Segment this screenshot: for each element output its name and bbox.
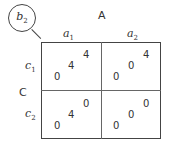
cell-c1-a1-mid: 4 [68,60,74,71]
column-level-a1: a1 [63,27,74,42]
grid-horizontal-divider [41,90,161,91]
row-level-c2: c2 [25,107,36,122]
column-level-a2: a2 [127,27,138,42]
row-factor-label: C [19,86,27,99]
cell-c2-a1-mid: 4 [68,109,74,120]
cell-c1-a2-bottom: 0 [113,71,119,82]
cell-c1-a2-mid: 0 [128,60,134,71]
cell-c1-a2-top: 4 [143,49,149,60]
cell-c2-a1-bottom: 0 [54,120,60,131]
badge-leader-line [31,29,41,39]
row-level-c1: c1 [25,59,36,74]
column-factor-label: A [98,9,106,22]
cell-c2-a2-bottom: 0 [113,120,119,131]
cell-c2-a2-top: 0 [143,98,149,109]
badge-label: b2 [8,10,36,25]
cell-c2-a2-mid: 0 [128,109,134,120]
cell-c1-a1-top: 4 [83,49,89,60]
cell-c2-a1-top: 0 [83,98,89,109]
cell-c1-a1-bottom: 0 [54,71,60,82]
